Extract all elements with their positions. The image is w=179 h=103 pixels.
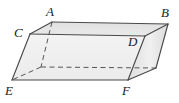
geometry-figure-container: A B C D E F xyxy=(0,0,179,103)
vertex-label-a: A xyxy=(46,5,54,18)
vertex-label-d: D xyxy=(128,35,137,48)
vertex-label-f: F xyxy=(122,84,130,97)
vertex-label-c: C xyxy=(14,26,23,39)
face-front xyxy=(12,34,145,80)
vertex-label-b: B xyxy=(161,6,169,19)
prism-drawing xyxy=(0,0,179,103)
vertex-label-e: E xyxy=(5,84,13,97)
